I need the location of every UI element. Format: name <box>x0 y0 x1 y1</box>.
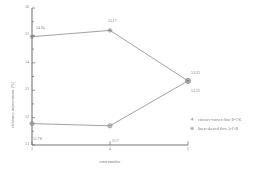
y-tick-label: 56 <box>17 6 29 10</box>
x-tick-label: 5 <box>183 148 193 152</box>
data-label: 55.17 <box>108 20 117 24</box>
x-axis-title: rotor number <box>80 160 140 164</box>
y-tick-label: 51 <box>17 143 29 147</box>
series-line-concave-convex <box>32 30 188 81</box>
chart-container: 56 55 54 53 52 51 3 4 5 rotor number eff… <box>0 0 279 183</box>
legend-label: concave-convex flow D-C-E <box>198 118 242 122</box>
y-tick-label: 52 <box>17 116 29 120</box>
series-markers-concave-convex <box>30 28 191 83</box>
x-tick-label: 4 <box>105 148 115 152</box>
circle-cross-marker-icon: ⊕ <box>188 126 196 131</box>
data-label: 51.7 <box>112 140 119 144</box>
legend-item-concave-convex: ✳ concave-convex flow D-C-E <box>188 115 278 124</box>
legend-item-linear-skewed: ⊕ linear skewed flow A-C-B <box>188 124 278 133</box>
series-line-linear-skewed <box>32 81 188 126</box>
data-label: 53.33 <box>191 90 200 94</box>
y-axis-title: efficiency improvement [%] <box>11 82 15 128</box>
data-label: 54.94 <box>36 27 45 31</box>
series-markers-linear-skewed <box>30 78 191 128</box>
y-tick-label: 53 <box>17 88 29 92</box>
y-tick-label: 55 <box>17 33 29 37</box>
data-label: 51.78 <box>33 138 42 142</box>
y-tick-label: 54 <box>17 61 29 65</box>
asterisk-marker-icon: ✳ <box>188 117 196 122</box>
data-label: 53.33 <box>191 72 200 76</box>
chart-legend: ✳ concave-convex flow D-C-E ⊕ linear ske… <box>188 115 278 133</box>
x-tick-label: 3 <box>27 148 37 152</box>
legend-label: linear skewed flow A-C-B <box>198 127 238 131</box>
